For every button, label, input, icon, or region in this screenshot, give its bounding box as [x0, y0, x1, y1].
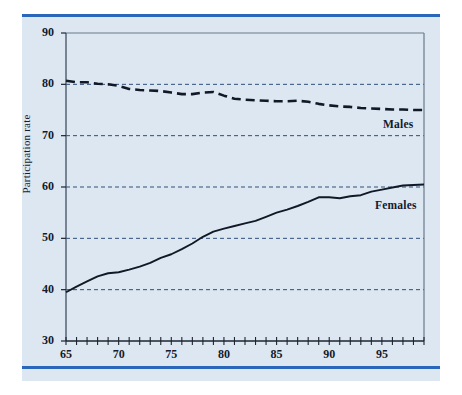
x-tick-label: 85 [262, 347, 292, 362]
y-tick-marks [61, 33, 66, 341]
y-tick-label: 50 [28, 230, 54, 245]
series-label-females: Females [375, 199, 417, 211]
y-tick-label: 80 [28, 76, 54, 91]
x-tick-label: 75 [156, 347, 186, 362]
x-tick-label: 80 [209, 347, 239, 362]
y-tick-label: 60 [28, 179, 54, 194]
plot-svg [0, 0, 462, 395]
x-tick-label: 90 [314, 347, 344, 362]
series-path-males [66, 81, 424, 110]
series-lines [66, 81, 424, 292]
y-tick-label: 90 [28, 25, 54, 40]
y-tick-label: 40 [28, 282, 54, 297]
y-tick-label: 30 [28, 333, 54, 348]
x-tick-label: 65 [51, 347, 81, 362]
figure-container: Participation rate 30405060708090 657075… [0, 0, 462, 395]
x-tick-label: 70 [104, 347, 134, 362]
y-tick-label: 70 [28, 128, 54, 143]
gridlines [66, 84, 424, 289]
x-tick-label: 95 [367, 347, 397, 362]
series-label-males: Males [383, 118, 413, 130]
